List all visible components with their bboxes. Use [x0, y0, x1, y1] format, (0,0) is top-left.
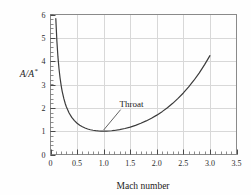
x-tick-label: 3.0: [205, 159, 215, 168]
y-tick-label: 5: [42, 34, 46, 43]
y-tick-label: 2: [42, 104, 46, 113]
y-tick-label: 0: [42, 151, 46, 160]
y-tick-label: 4: [42, 57, 46, 66]
y-tick-label: 3: [42, 81, 46, 90]
x-tick-label: 2.5: [178, 159, 188, 168]
x-tick-label: 2.0: [152, 159, 162, 168]
x-tick-label: 0.5: [72, 159, 82, 168]
y-tick-label: 6: [42, 11, 46, 20]
y-tick-label: 1: [42, 127, 46, 136]
throat-annotation-label: Throat: [120, 99, 144, 109]
chart-figure: 00.51.01.52.02.53.03.5 0123456 Throat Ma…: [0, 0, 251, 195]
y-axis-title-superscript: *: [35, 67, 39, 75]
y-axis-title-text: A/A: [19, 69, 34, 79]
x-axis-title: Mach number: [116, 181, 170, 191]
x-tick-label: 1.0: [99, 159, 109, 168]
x-tick-label: 3.5: [232, 159, 242, 168]
x-tick-label: 0: [49, 159, 53, 168]
area-ratio-vs-mach-chart: 00.51.01.52.02.53.03.5 0123456 Throat Ma…: [0, 0, 251, 195]
x-tick-label: 1.5: [125, 159, 135, 168]
